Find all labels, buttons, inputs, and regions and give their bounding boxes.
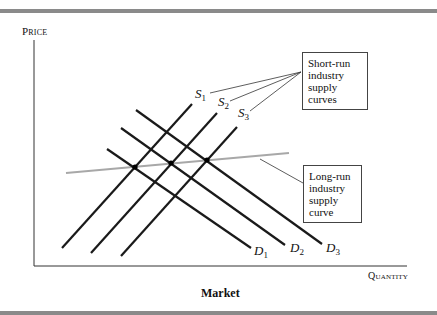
label-d2: D2 <box>290 240 304 257</box>
short-run-line-2: industry <box>308 69 362 81</box>
leader-line-s2 <box>230 72 301 101</box>
supply-curve-s1 <box>62 104 192 248</box>
short-run-line-3: supply curves <box>308 81 362 105</box>
x-axis-label: Quantity <box>368 270 408 281</box>
long-run-line-1: Long-run <box>309 170 356 182</box>
label-s2: S2 <box>218 94 229 111</box>
label-d3: D3 <box>326 240 340 257</box>
equilibrium-point-2 <box>168 160 173 165</box>
short-run-line-1: Short-run <box>308 57 362 69</box>
figure-caption: Market <box>201 286 240 301</box>
label-s1: S1 <box>195 86 206 103</box>
bottom-rule <box>0 311 437 315</box>
long-run-annotation-box: Long-run industry supply curve <box>303 165 362 223</box>
equilibrium-point-1 <box>132 164 137 169</box>
equilibrium-point-3 <box>204 157 209 162</box>
supply-curve-s3 <box>121 127 237 256</box>
short-run-annotation-box: Short-run industry supply curves <box>302 52 368 110</box>
leader-line-long-run <box>260 159 303 183</box>
long-run-line-2: industry <box>309 182 356 194</box>
long-run-line-3: supply curve <box>309 194 356 218</box>
demand-curve-d3 <box>136 110 322 244</box>
label-s3: S3 <box>238 105 249 122</box>
supply-demand-diagram <box>0 0 437 315</box>
label-d1: D1 <box>254 243 268 260</box>
y-axis-label: Price <box>22 25 47 37</box>
